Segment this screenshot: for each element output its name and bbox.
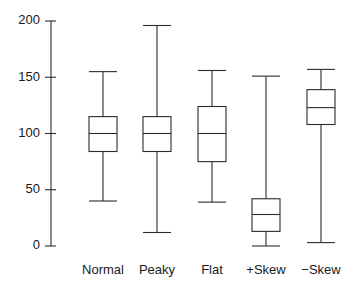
x-label-Normal: Normal bbox=[82, 262, 124, 277]
y-tick-label-200: 200 bbox=[18, 12, 40, 27]
box-plot-Flat bbox=[198, 71, 226, 203]
box-Peaky bbox=[143, 117, 171, 152]
box-+Skew bbox=[252, 199, 280, 232]
y-tick-label-100: 100 bbox=[18, 125, 40, 140]
x-axis-category-labels: NormalPeakyFlat+Skew−Skew bbox=[82, 262, 341, 277]
box-−Skew bbox=[307, 90, 335, 125]
x-label-Peaky: Peaky bbox=[139, 262, 176, 277]
x-label-+Skew: +Skew bbox=[246, 262, 286, 277]
box-plot-+Skew bbox=[252, 76, 280, 246]
x-label-−Skew: −Skew bbox=[301, 262, 341, 277]
box-plot-Peaky bbox=[143, 26, 171, 233]
box-Flat bbox=[198, 107, 226, 162]
box-plot-svg: 200150100500 NormalPeakyFlat+Skew−Skew bbox=[0, 0, 355, 294]
x-label-Flat: Flat bbox=[201, 262, 223, 277]
box-plot-Normal bbox=[89, 72, 117, 201]
y-axis-tick-labels: 200150100500 bbox=[18, 12, 40, 252]
y-tick-label-150: 150 bbox=[18, 69, 40, 84]
box-series bbox=[89, 26, 335, 247]
y-tick-label-50: 50 bbox=[26, 181, 40, 196]
y-tick-label-0: 0 bbox=[33, 237, 40, 252]
box-Normal bbox=[89, 117, 117, 152]
box-plot-−Skew bbox=[307, 69, 335, 242]
box-plot-chart: 200150100500 NormalPeakyFlat+Skew−Skew bbox=[0, 0, 355, 294]
